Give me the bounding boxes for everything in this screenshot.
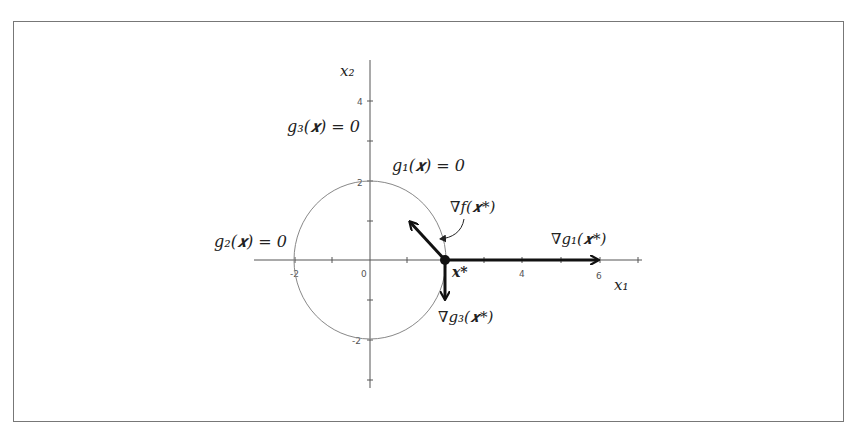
label-grad-g3: ∇g₃(𝒙*) bbox=[438, 308, 493, 326]
label-g1: g₁(𝒙) = 0 bbox=[392, 156, 465, 175]
label-g3: g₃(𝒙) = 0 bbox=[287, 117, 360, 136]
x-tick-6: 6 bbox=[596, 271, 602, 281]
x-axis-label: x₁ bbox=[614, 276, 628, 294]
label-grad-g1: ∇g₁(𝒙*) bbox=[551, 230, 606, 248]
constraint-diagram: -2 0 4 6 x₁ 4 2 -2 x₂ g₃(𝒙) = 0 g₁(𝒙) = … bbox=[0, 0, 858, 428]
x-tick-0: 0 bbox=[361, 269, 367, 279]
x-tick-4: 4 bbox=[519, 269, 525, 279]
optimal-point bbox=[440, 255, 450, 265]
y-tick-4: 4 bbox=[357, 97, 363, 107]
y-tick-2: 2 bbox=[357, 178, 363, 188]
label-g2: g₂(𝒙) = 0 bbox=[214, 232, 287, 251]
grad-f-pointer bbox=[440, 219, 464, 239]
y-axis-label: x₂ bbox=[340, 62, 354, 80]
optimal-point-label: 𝒙* bbox=[451, 264, 468, 280]
label-grad-f: ∇f(𝒙*) bbox=[450, 198, 495, 216]
